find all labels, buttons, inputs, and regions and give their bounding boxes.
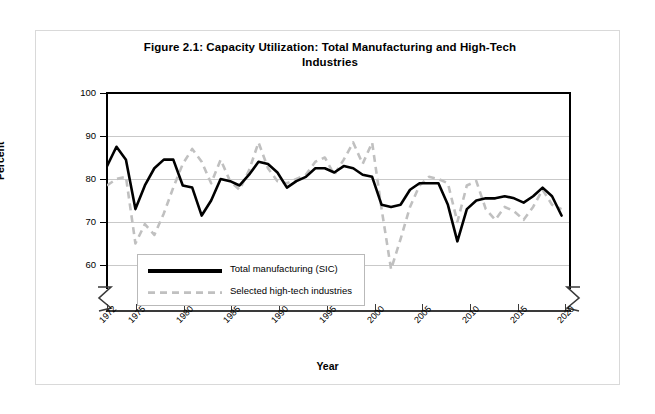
series-line-total-manufacturing	[107, 147, 562, 242]
y-tick-label-100: 100	[66, 87, 96, 98]
chart-legend: Total manufacturing (SIC) Selected high-…	[137, 254, 365, 306]
y-tick-label-60: 60	[66, 259, 96, 270]
figure-page: Figure 2.1: Capacity Utilization: Total …	[0, 0, 655, 414]
y-tick-label-90: 90	[66, 130, 96, 141]
chart-title-line-2: Industries	[90, 55, 570, 70]
legend-swatch-solid-icon	[148, 269, 222, 273]
legend-label-selected-high-tech: Selected high-tech industries	[230, 285, 352, 296]
page-title: Figure 2.1: Capacity Utilization: Total …	[90, 40, 570, 70]
y-axis-title: Percent	[0, 141, 6, 180]
legend-label-total-manufacturing: Total manufacturing (SIC)	[230, 263, 338, 274]
legend-swatch-dashed-icon	[148, 290, 222, 294]
y-tick-label-80: 80	[66, 173, 96, 184]
y-tick-label-70: 70	[66, 216, 96, 227]
x-axis-title: Year	[0, 360, 655, 372]
chart-title-line-1: Figure 2.1: Capacity Utilization: Total …	[90, 40, 570, 55]
